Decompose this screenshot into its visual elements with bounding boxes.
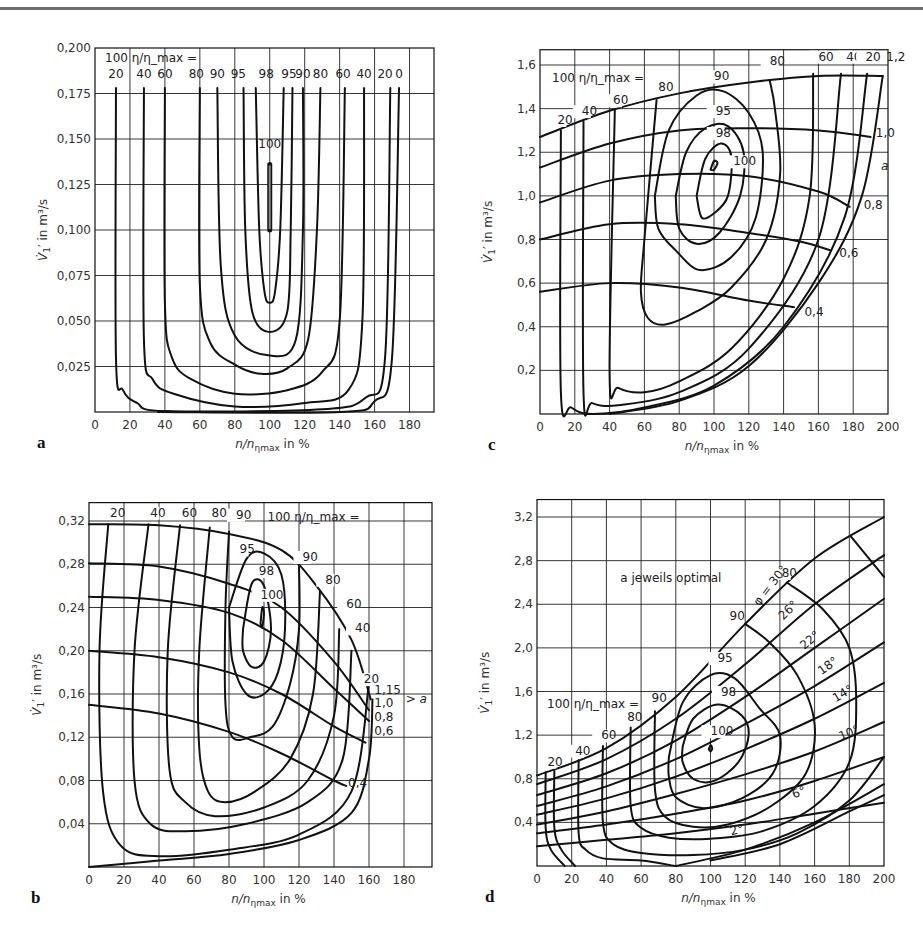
x-tick-label: 180 <box>842 420 865 434</box>
x-tick-label: 200 <box>877 420 900 434</box>
y-tick-label: 0,04 <box>58 817 85 831</box>
x-tick-label: 160 <box>363 418 386 432</box>
contour-label: 90 <box>730 609 745 623</box>
contour-label: 0 <box>395 67 403 81</box>
contour-label: 20 <box>108 67 123 81</box>
contour-label: 40 <box>136 67 151 81</box>
efficiency-contour <box>225 532 300 740</box>
contour-label: 95 <box>281 67 296 81</box>
x-axis-title: n/nηmax in % <box>685 439 760 455</box>
contour-label: 40 <box>575 744 590 758</box>
contour-label: 60 <box>346 597 361 611</box>
y-tick-label: 0,050 <box>57 314 91 328</box>
x-tick-label: 120 <box>734 872 757 886</box>
x-tick-label: 40 <box>599 872 614 886</box>
a-value-label: 0,4 <box>348 776 367 790</box>
a-symbol: a <box>881 159 888 173</box>
figure-canvas: 0204060801001201401601800,0250,0500,0750… <box>0 0 923 934</box>
phi-label: 6° <box>790 783 808 801</box>
a-value-label: 1,2 <box>886 50 905 64</box>
y-tick-label: 2,0 <box>514 641 533 655</box>
efficiency-contour <box>164 88 345 394</box>
x-tick-label: 200 <box>873 872 896 886</box>
y-axis-title: V̇1′ in m³/s <box>36 199 52 261</box>
panel-letter: d <box>485 887 495 906</box>
contour-label: 20 <box>557 113 572 127</box>
contour-label: 80 <box>189 67 204 81</box>
a-characteristic-curve <box>540 174 850 207</box>
y-tick-label: 0,08 <box>58 774 85 788</box>
x-tick-label: 40 <box>151 873 166 887</box>
x-tick-label: 100 <box>703 420 726 434</box>
y-tick-label: 0,20 <box>58 644 85 658</box>
contour-label: 95 <box>231 67 246 81</box>
contour-label: 100 <box>733 154 756 168</box>
chart-panel-a: 0204060801001201401601800,0250,0500,0750… <box>36 41 434 453</box>
y-tick-label: 0,28 <box>58 557 85 571</box>
y-tick-label: 1,0 <box>517 189 536 203</box>
y-tick-label: 0,8 <box>514 772 533 786</box>
x-tick-label: 160 <box>803 872 826 886</box>
contour-label: 80 <box>313 67 328 81</box>
chart-panel-c: 0204060801001201401601802000,20,40,60,81… <box>481 50 906 455</box>
a-symbol: > a <box>406 692 427 706</box>
contour-label: 90 <box>652 691 667 705</box>
contour-label: 80 <box>770 54 785 68</box>
y-tick-label: 1,2 <box>517 145 536 159</box>
contour-label: 95 <box>717 651 732 665</box>
annotation-text: a jeweils optimal <box>620 571 721 585</box>
contour-label: 60 <box>613 93 628 107</box>
x-axis-title: n/nηmax in % <box>681 891 756 907</box>
a-value-label: 0,4 <box>804 305 823 319</box>
contour-label: 98 <box>259 564 274 578</box>
y-tick-label: 0,4 <box>514 815 533 829</box>
contour-label: 20 <box>377 67 392 81</box>
y-tick-label: 0,4 <box>517 320 536 334</box>
y-tick-label: 0,32 <box>58 514 85 528</box>
x-tick-label: 140 <box>323 873 346 887</box>
efficiency-contour <box>610 74 814 399</box>
x-tick-label: 40 <box>602 420 617 434</box>
y-tick-label: 0,6 <box>517 276 536 290</box>
x-axis-title: n/nηmax in % <box>231 892 306 908</box>
y-tick-label: 0,8 <box>517 233 536 247</box>
a-value-label: 0,6 <box>839 246 858 260</box>
efficiency-contour <box>143 88 364 407</box>
legend-title: 100 η/η_max = <box>547 697 639 711</box>
y-axis-title: V̇1′ in m³/s <box>30 654 46 716</box>
y-tick-label: 0,100 <box>57 223 91 237</box>
phi-label: 14° <box>830 682 855 705</box>
y-tick-label: 1,6 <box>517 58 536 72</box>
contour-label: 20 <box>547 755 562 769</box>
contour-label: 98 <box>721 685 736 699</box>
y-tick-label: 1,6 <box>514 685 533 699</box>
contour-label: 60 <box>601 728 616 742</box>
phi-label: 10° <box>837 722 862 743</box>
x-tick-label: 20 <box>122 418 137 432</box>
contour-label: 90 <box>210 67 225 81</box>
contour-label: 98 <box>259 67 274 81</box>
a-value-label: 1,15 <box>374 683 401 697</box>
y-tick-label: 2,8 <box>514 554 533 568</box>
y-tick-label: 1,2 <box>514 728 533 742</box>
y-tick-label: 2,4 <box>514 597 533 611</box>
x-tick-label: 180 <box>393 873 416 887</box>
legend-title: 100 η/η_max = <box>552 71 644 85</box>
x-tick-label: 140 <box>328 418 351 432</box>
y-tick-label: 0,075 <box>57 269 91 283</box>
x-tick-label: 60 <box>192 418 207 432</box>
a-value-label: 1,0 <box>374 696 393 710</box>
x-tick-label: 20 <box>567 420 582 434</box>
x-tick-label: 100 <box>258 418 281 432</box>
y-tick-label: 0,200 <box>57 41 91 55</box>
x-axis-title: n/nηmax in % <box>235 437 310 453</box>
grid-lines <box>95 48 434 412</box>
contour-label: 60 <box>818 50 833 64</box>
x-tick-label: 60 <box>633 872 648 886</box>
x-tick-label: 160 <box>807 420 830 434</box>
contour-label: 90 <box>714 69 729 83</box>
efficiency-contour <box>654 624 815 828</box>
contour-label: 80 <box>212 506 227 520</box>
contour-label: 80 <box>658 80 673 94</box>
a-value-label: 0,6 <box>374 724 393 738</box>
